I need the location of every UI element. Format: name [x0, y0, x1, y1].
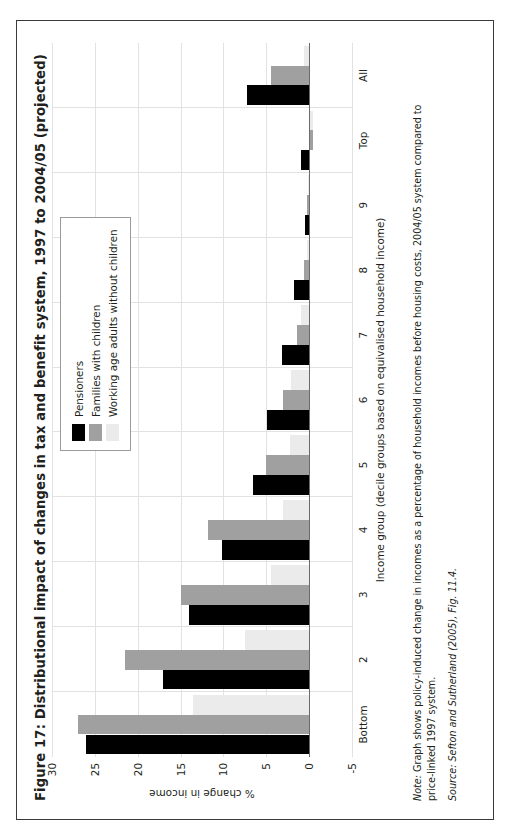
- bar-workingage: [244, 630, 308, 650]
- y-axis-title: % change in income: [52, 785, 352, 803]
- legend-swatch: [89, 424, 102, 441]
- category-divider: [52, 172, 352, 173]
- note-lead: Note:: [412, 775, 423, 801]
- bar-workingage: [304, 46, 309, 66]
- bar-workingage: [290, 435, 309, 455]
- bar-group: [52, 43, 352, 108]
- bar-families: [208, 520, 309, 540]
- bar-pensioners: [304, 215, 308, 235]
- bar-workingage: [193, 695, 309, 715]
- bar-families: [282, 390, 309, 410]
- y-tick-label: 10: [217, 763, 229, 776]
- x-tick-label: Top: [357, 132, 369, 150]
- bar-workingage: [301, 305, 309, 325]
- figure-page: Figure 17: Distributional impact of chan…: [0, 0, 509, 840]
- x-tick-label: Bottom: [357, 705, 369, 743]
- category-divider: [52, 626, 352, 627]
- zero-line: [309, 43, 310, 757]
- bar-families: [266, 455, 309, 475]
- note-text: Graph shows policy-induced change in inc…: [412, 105, 437, 801]
- note-line: Note: Graph shows policy-induced change …: [411, 101, 438, 801]
- bar-pensioners: [252, 475, 309, 495]
- legend-label: Families with children: [89, 305, 101, 417]
- bar-group: [52, 692, 352, 757]
- bar-pensioners: [86, 735, 309, 755]
- bar-pensioners: [163, 670, 309, 690]
- x-tick-label: 5: [357, 462, 369, 469]
- y-tick-label: 25: [88, 763, 100, 776]
- bar-families: [180, 585, 309, 605]
- bar-pensioners: [267, 410, 309, 430]
- x-tick-label: All: [357, 69, 369, 82]
- figure-notes: Note: Graph shows policy-induced change …: [411, 37, 458, 801]
- page-title: Figure 17: Distributional impact of chan…: [33, 37, 48, 801]
- legend-label: Pensioners: [72, 361, 84, 417]
- legend-item: Pensioners: [72, 229, 85, 441]
- y-tick-label: 0: [303, 763, 315, 770]
- bar-group: [52, 562, 352, 627]
- category-divider: [52, 561, 352, 562]
- bar-families: [304, 260, 309, 280]
- x-tick-label: 8: [357, 267, 369, 274]
- bar-group: [52, 627, 352, 692]
- y-tick-label: 20: [131, 763, 143, 776]
- bar-workingage: [270, 565, 309, 585]
- bar-group: [52, 497, 352, 562]
- legend-item: Families with children: [89, 229, 102, 441]
- x-tick-label: 6: [357, 397, 369, 404]
- x-tick-label: 7: [357, 332, 369, 339]
- bar-workingage: [283, 500, 309, 520]
- bar-families: [297, 325, 309, 345]
- x-axis-title: Income group (decile groups based on equ…: [374, 43, 386, 757]
- bar-families: [77, 715, 308, 735]
- x-tick-label: 3: [357, 591, 369, 598]
- y-tick-label: -5: [346, 763, 358, 773]
- bar-pensioners: [301, 150, 309, 170]
- y-tick-label: 15: [174, 763, 186, 776]
- legend-swatch: [72, 424, 85, 441]
- x-tick-label: 9: [357, 202, 369, 209]
- x-tick-label: 2: [357, 656, 369, 663]
- bar-pensioners: [189, 605, 309, 625]
- bar-pensioners: [247, 85, 309, 105]
- category-divider: [52, 107, 352, 108]
- chart-legend: PensionersFamilies with childrenWorking …: [60, 217, 131, 451]
- bar-group: [52, 108, 352, 173]
- category-divider: [52, 691, 352, 692]
- legend-swatch: [106, 424, 119, 441]
- figure-container: Figure 17: Distributional impact of chan…: [16, 20, 494, 820]
- bar-families: [124, 650, 308, 670]
- bar-pensioners: [293, 280, 308, 300]
- chart-plot-area: % change in income -5051015202530 Bottom…: [52, 37, 402, 803]
- bar-families: [270, 66, 309, 86]
- x-axis-ticks: Bottom23456789TopAll: [352, 43, 374, 757]
- bar-pensioners: [221, 540, 308, 560]
- legend-item: Working age adults without children: [106, 229, 119, 441]
- x-tick-label: 4: [357, 527, 369, 534]
- bar-pensioners: [281, 345, 308, 365]
- y-axis-ticks: -5051015202530: [52, 759, 352, 785]
- y-tick-label: 5: [260, 763, 272, 770]
- category-divider: [52, 496, 352, 497]
- legend-label: Working age adults without children: [106, 229, 118, 417]
- y-tick-label: 30: [46, 763, 58, 776]
- y-axis-title-text: % change in income: [149, 788, 255, 800]
- bar-workingage: [291, 370, 309, 390]
- source-line: Source: Sefton and Sutherland (2005), Fi…: [447, 37, 458, 801]
